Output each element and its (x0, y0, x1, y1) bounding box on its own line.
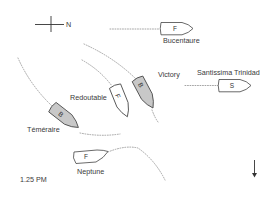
ship-letter: F (84, 153, 88, 160)
battle-diagram: N F Bucentaure Santissima Trinidad S Vic… (0, 0, 274, 197)
ship-label: Téméraire (27, 125, 60, 134)
ship-bucentaure: F Bucentaure (160, 23, 200, 46)
ship-hull (132, 75, 159, 111)
ship-letter: S (230, 82, 235, 89)
ship-santissima-trinidad: Santissima Trinidad S (197, 68, 260, 92)
ship-hull (218, 80, 251, 92)
compass-north-label: N (66, 20, 71, 29)
arrow-down-icon (252, 160, 257, 178)
ship-letter: F (173, 25, 177, 32)
ship-label: Santissima Trinidad (197, 68, 260, 77)
track-temeraire-wake (80, 133, 120, 135)
compass: N (35, 16, 71, 32)
track-neptune-wake (108, 147, 165, 180)
track-redoutable-upper (82, 60, 112, 86)
compass-cross-icon (35, 16, 64, 32)
ship-label: Redoutable (70, 93, 107, 102)
ship-neptune: F Neptune (73, 150, 108, 176)
time-label: 1.25 PM (20, 175, 47, 184)
track-victory-wake (152, 110, 158, 122)
ship-label: Neptune (77, 167, 104, 176)
ship-label: Bucentaure (163, 36, 200, 45)
track-victory-upper (84, 44, 137, 80)
ship-temeraire: B Téméraire (27, 102, 82, 134)
ship-label: Victory (158, 70, 180, 79)
ship-victory: Victory B (132, 70, 181, 111)
track-temeraire-upper (18, 58, 52, 106)
ship-hull (73, 150, 108, 164)
ship-redoutable: Redoutable F (70, 83, 133, 119)
ship-hull (109, 83, 133, 119)
